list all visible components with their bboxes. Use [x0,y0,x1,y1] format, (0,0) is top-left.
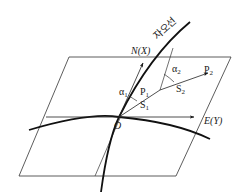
angle-arc-alpha1 [129,96,137,101]
alpha2-subscript: 2 [177,68,181,76]
p1-subscript: 1 [146,91,150,99]
s1-label: S1 [140,99,150,112]
s2-label: S2 [176,83,186,96]
alpha1-subscript: 1 [124,91,128,99]
origin-label: O [114,120,121,131]
angle-arc-alpha2 [164,74,174,82]
alpha2-label: α2 [172,63,181,76]
s1-subscript: 1 [146,104,150,112]
east-axis-label: E(Y) [203,115,223,127]
tangent-plane [19,57,231,176]
p2-label: P2 [204,64,214,77]
north-axis-label: N(X) [130,45,151,57]
s2-subscript: 2 [182,88,186,96]
geodetic-diagram: 자오선 N(X) E(Y) O α1 P1 S1 α2 S2 P2 [0,0,245,194]
alpha1-label: α1 [119,86,128,99]
p2-subscript: 2 [210,69,214,77]
p1-label: P1 [140,86,150,99]
